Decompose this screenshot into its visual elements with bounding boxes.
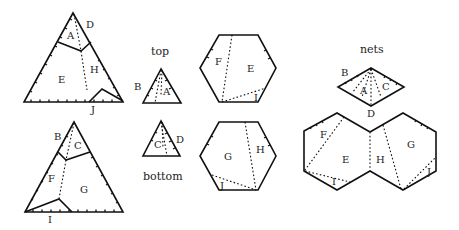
nets: nets B A C D F E H G I J — [304, 43, 436, 190]
label-G: G — [80, 184, 88, 195]
label-A-small: A — [162, 86, 171, 97]
label-J-net: J — [426, 166, 431, 177]
label-J-hex: J — [219, 180, 224, 191]
label-I: I — [48, 214, 52, 225]
label-I-hex: I — [254, 92, 258, 103]
label-H-hex: H — [256, 144, 265, 155]
label-F-hex: F — [215, 56, 222, 67]
caption-nets: nets — [360, 43, 384, 56]
label-H-net: H — [376, 154, 385, 165]
label-B: B — [54, 131, 61, 142]
label-C: C — [74, 140, 82, 151]
caption-bottom: bottom — [143, 170, 183, 183]
label-C-small: C — [154, 139, 162, 150]
label-F-net: F — [320, 129, 327, 140]
label-B-net: B — [341, 67, 348, 78]
label-E-hex: E — [247, 63, 254, 74]
label-E-net: E — [342, 154, 349, 165]
tick-marks — [30, 19, 119, 102]
label-E: E — [58, 74, 65, 85]
label-D-net: D — [367, 108, 375, 119]
label-A: A — [66, 30, 75, 41]
caption-top: top — [151, 45, 169, 58]
label-J: J — [90, 104, 95, 115]
label-H: H — [90, 64, 99, 75]
small-triangle-bottom: C D bottom — [143, 121, 184, 183]
label-I-net: I — [332, 176, 336, 187]
label-F: F — [48, 173, 55, 184]
hexagon-bottom: G H J — [200, 122, 276, 191]
label-D-small: D — [176, 134, 184, 145]
large-triangle-bottom: B C F G I — [25, 122, 123, 225]
label-G-hex: G — [224, 151, 232, 162]
hexagon-top: F E I — [200, 35, 276, 103]
small-triangle-top: top B A — [134, 45, 181, 103]
dissection-diagram: A D E H J — [0, 0, 459, 230]
label-D: D — [86, 19, 94, 30]
label-C-net: C — [382, 81, 390, 92]
label-A-net: A — [359, 85, 368, 96]
label-B-small: B — [134, 81, 141, 92]
label-G-net: G — [407, 139, 415, 150]
large-triangle-top: A D E H J — [24, 13, 123, 115]
